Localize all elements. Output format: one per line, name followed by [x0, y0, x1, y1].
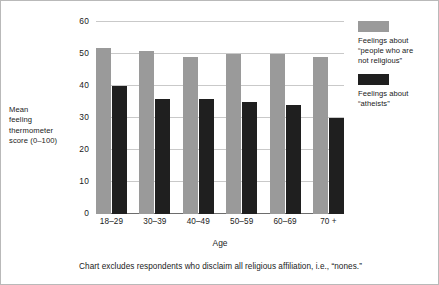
legend-label: Feelings about“people who arenot religio… [358, 36, 434, 65]
legend-label-line: “atheists” [358, 99, 434, 109]
y-tick-label-30: 30 [79, 112, 89, 122]
bar[interactable] [183, 57, 198, 214]
x-axis-label: Age [96, 238, 344, 248]
y-tick-label-10: 10 [79, 176, 89, 186]
y-axis-label-line-2: feeling [9, 115, 77, 125]
legend-label-line: not religious” [358, 56, 434, 66]
bar[interactable] [313, 57, 328, 214]
y-tick-label-0: 0 [84, 208, 89, 218]
y-axis-label-line-4: score (0–100) [9, 136, 77, 146]
x-tick-label: 50–59 [226, 217, 257, 226]
bar-group [313, 22, 344, 214]
bar[interactable] [242, 102, 257, 214]
bar[interactable] [96, 48, 111, 214]
y-tick-label-20: 20 [79, 144, 89, 154]
x-tick-label: 70 + [313, 217, 344, 226]
bar-groups [96, 22, 344, 214]
legend-label-line: Feelings about [358, 89, 434, 99]
bar-group [183, 22, 214, 214]
chart-legend: Feelings about“people who arenot religio… [358, 21, 434, 118]
y-tick-label-40: 40 [79, 80, 89, 90]
bar-group [226, 22, 257, 214]
x-tick-label: 18–29 [96, 217, 127, 226]
bar-group [96, 22, 127, 214]
legend-entry[interactable]: Feelings about“atheists” [358, 74, 434, 109]
y-tick-label-50: 50 [79, 48, 89, 58]
bar[interactable] [270, 54, 285, 214]
chart-figure: Mean feeling thermometer score (0–100) 0… [0, 0, 439, 285]
x-tick-label: 30–39 [139, 217, 170, 226]
legend-swatch [358, 74, 389, 85]
bar[interactable] [199, 99, 214, 214]
bar-group [270, 22, 301, 214]
chart-footnote: Chart excludes respondents who disclaim … [13, 262, 428, 271]
legend-swatch [358, 21, 389, 32]
plot-area: 0102030405060 [96, 22, 344, 214]
y-axis-label: Mean feeling thermometer score (0–100) [9, 105, 77, 147]
legend-entry[interactable]: Feelings about“people who arenot religio… [358, 21, 434, 65]
bar[interactable] [329, 118, 344, 214]
bar-group [139, 22, 170, 214]
bar[interactable] [112, 86, 127, 214]
bar[interactable] [226, 54, 241, 214]
bar[interactable] [139, 51, 154, 214]
y-tick-label-60: 60 [79, 16, 89, 26]
x-tick-label: 60–69 [270, 217, 301, 226]
x-axis-tick-labels: 18–2930–3940–4950–5960–6970 + [96, 217, 344, 226]
legend-label: Feelings about“atheists” [358, 89, 434, 109]
y-axis-label-line-3: thermometer [9, 126, 77, 136]
legend-label-line: Feelings about [358, 36, 434, 46]
bar[interactable] [286, 105, 301, 214]
x-tick-label: 40–49 [183, 217, 214, 226]
legend-label-line: “people who are [358, 46, 434, 56]
y-axis-label-line-1: Mean [9, 105, 77, 115]
bar[interactable] [155, 99, 170, 214]
